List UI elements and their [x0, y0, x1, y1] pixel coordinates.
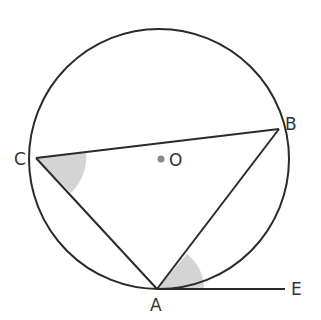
label-e: E [291, 279, 302, 299]
geometry-diagram: O C B A E [0, 0, 321, 320]
angle-c-shade [36, 152, 86, 193]
center-dot [158, 156, 165, 163]
label-b: B [285, 114, 297, 134]
label-c: C [14, 149, 26, 169]
chord-ca [36, 158, 157, 289]
label-a: A [150, 295, 162, 315]
chord-cb [36, 129, 279, 158]
label-o: O [169, 150, 182, 170]
